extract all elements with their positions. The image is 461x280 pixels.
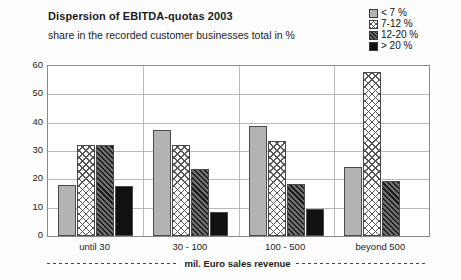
y-axis-tick-label: 40 [21, 117, 43, 127]
chart-page: Dispersion of EBITDA-quotas 2003 share i… [0, 0, 461, 280]
chart-legend: < 7 % 7-12 % 12-20 % > 20 % [369, 8, 453, 52]
title-block: Dispersion of EBITDA-quotas 2003 share i… [48, 10, 368, 41]
x-axis-category-label: 100 - 500 [238, 241, 333, 252]
bar [287, 184, 305, 236]
y-axis-tick-label: 20 [21, 173, 43, 183]
bar [77, 145, 95, 236]
bar [344, 167, 362, 236]
bar [191, 169, 209, 236]
group-divider [143, 66, 144, 236]
legend-item: < 7 % [369, 8, 453, 19]
x-axis-title-row: mil. Euro sales revenue [47, 258, 428, 269]
group-divider [334, 66, 335, 236]
bar [306, 209, 324, 236]
bar [58, 185, 76, 236]
chart-subtitle: share in the recorded customer businesse… [48, 29, 368, 41]
legend-item-label: 12-20 % [381, 30, 418, 40]
bar [382, 181, 400, 236]
x-axis-category-label: 30 - 100 [142, 241, 237, 252]
legend-item: > 20 % [369, 41, 453, 52]
bar [96, 145, 114, 236]
bar [249, 126, 267, 237]
plot-area [47, 65, 430, 237]
legend-item-label: 7-12 % [381, 19, 413, 29]
legend-item-label: > 20 % [381, 41, 412, 51]
group-divider [239, 66, 240, 236]
page-title: Dispersion of EBITDA-quotas 2003 [48, 10, 368, 22]
y-axis-tick-label: 50 [21, 88, 43, 98]
legend-item: 7-12 % [369, 19, 453, 30]
dash-rule-left [47, 263, 179, 264]
legend-swatch-icon [369, 9, 378, 18]
bar [363, 72, 381, 236]
bar [115, 186, 133, 236]
x-axis-category-label: beyond 500 [333, 241, 428, 252]
legend-item-label: < 7 % [381, 8, 407, 18]
x-axis-category-label: until 30 [47, 241, 142, 252]
x-axis-title: mil. Euro sales revenue [179, 258, 295, 269]
bar [172, 145, 190, 236]
y-axis-tick-label: 0 [21, 230, 43, 240]
bar [210, 212, 228, 236]
legend-swatch-icon [369, 42, 378, 51]
y-axis-tick-label: 60 [21, 60, 43, 70]
dash-rule-right [296, 263, 428, 264]
y-axis: 0102030405060 [17, 65, 43, 235]
y-axis-tick-label: 10 [21, 202, 43, 212]
y-axis-tick-label: 30 [21, 145, 43, 155]
legend-swatch-icon [369, 20, 378, 29]
legend-item: 12-20 % [369, 30, 453, 41]
legend-swatch-icon [369, 31, 378, 40]
x-axis-category-labels: until 3030 - 100100 - 500beyond 500 [47, 241, 428, 255]
bar [268, 141, 286, 236]
bar [153, 130, 171, 236]
